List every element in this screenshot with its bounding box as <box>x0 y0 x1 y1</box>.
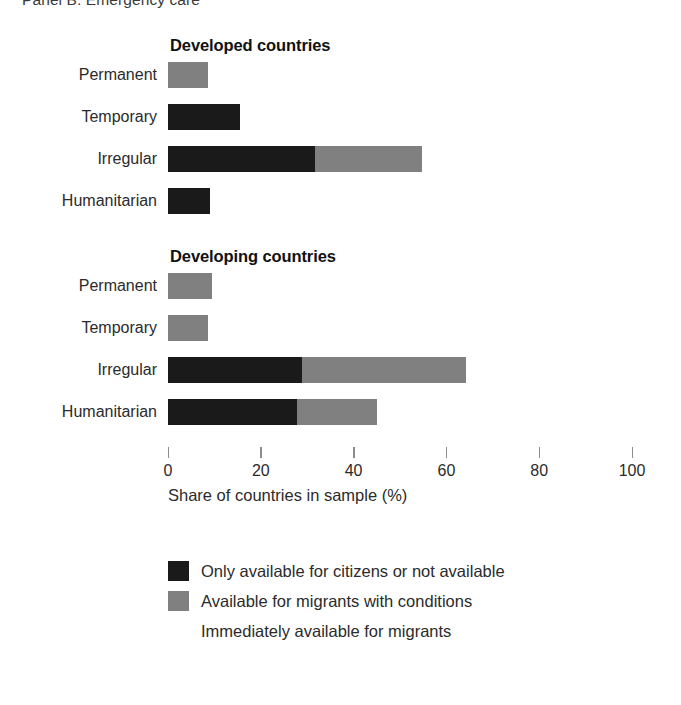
bar-segment-1 <box>168 62 208 88</box>
x-tick-label-0: 0 <box>164 462 173 480</box>
bar-developing-irregular <box>168 357 632 383</box>
legend-label-0: Only available for citizens or not avail… <box>201 562 505 581</box>
chart-legend: Only available for citizens or not avail… <box>168 556 505 646</box>
x-tick-40 <box>353 447 355 458</box>
category-label-temporary: Temporary <box>0 108 157 126</box>
bar-segment-1 <box>302 357 467 383</box>
panel-title: Panel B. Emergency care <box>22 0 200 9</box>
bar-segment-0 <box>168 188 210 214</box>
bar-segment-0 <box>168 104 240 130</box>
bar-segment-0 <box>168 399 297 425</box>
category-label-humanitarian: Humanitarian <box>0 403 157 421</box>
bar-segment-0 <box>168 146 315 172</box>
legend-label-1: Available for migrants with conditions <box>201 592 472 611</box>
legend-item-0[interactable]: Only available for citizens or not avail… <box>168 556 505 586</box>
x-tick-label-80: 80 <box>530 462 548 480</box>
bar-developed-permanent <box>168 62 632 88</box>
x-tick-80 <box>539 447 541 458</box>
legend-swatch-icon-2 <box>168 621 189 641</box>
category-label-permanent: Permanent <box>0 277 157 295</box>
bar-developed-irregular <box>168 146 632 172</box>
bar-developing-permanent <box>168 273 632 299</box>
legend-item-1[interactable]: Available for migrants with conditions <box>168 586 505 616</box>
bar-segment-2 <box>377 399 632 425</box>
bar-segment-2 <box>240 104 632 130</box>
bar-segment-1 <box>297 399 378 425</box>
legend-item-2[interactable]: Immediately available for migrants <box>168 616 505 646</box>
x-axis-title: Share of countries in sample (%) <box>168 486 407 505</box>
bar-segment-2 <box>422 146 632 172</box>
chart-page: { "panel": { "title": "Panel B. Emergenc… <box>0 0 681 705</box>
x-tick-label-100: 100 <box>619 462 646 480</box>
x-tick-label-40: 40 <box>345 462 363 480</box>
x-tick-100 <box>632 447 634 458</box>
category-label-permanent: Permanent <box>0 66 157 84</box>
bar-segment-2 <box>208 315 632 341</box>
bar-segment-2 <box>466 357 632 383</box>
category-label-humanitarian: Humanitarian <box>0 192 157 210</box>
legend-swatch-icon-0 <box>168 561 189 581</box>
group-title-developing: Developing countries <box>170 247 336 266</box>
bar-developing-humanitarian <box>168 399 632 425</box>
bar-segment-1 <box>168 315 208 341</box>
bar-segment-0 <box>168 357 302 383</box>
x-tick-20 <box>260 447 262 458</box>
x-tick-60 <box>446 447 448 458</box>
category-label-temporary: Temporary <box>0 319 157 337</box>
x-tick-label-20: 20 <box>252 462 270 480</box>
x-tick-0 <box>168 447 170 458</box>
bar-segment-2 <box>212 273 632 299</box>
bar-developing-temporary <box>168 315 632 341</box>
bar-segment-2 <box>208 62 632 88</box>
category-label-irregular: Irregular <box>0 361 157 379</box>
legend-label-2: Immediately available for migrants <box>201 622 451 641</box>
bar-segment-2 <box>210 188 632 214</box>
bar-developed-humanitarian <box>168 188 632 214</box>
bar-segment-1 <box>315 146 423 172</box>
x-tick-label-60: 60 <box>437 462 455 480</box>
legend-swatch-icon-1 <box>168 591 189 611</box>
bar-segment-1 <box>168 273 212 299</box>
category-label-irregular: Irregular <box>0 150 157 168</box>
group-title-developed: Developed countries <box>170 36 330 55</box>
bar-developed-temporary <box>168 104 632 130</box>
